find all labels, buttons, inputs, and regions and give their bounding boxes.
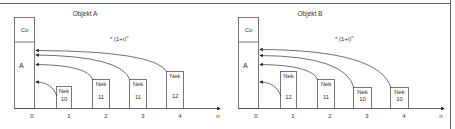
diagram-canvas: Objekt A * (1+i)n Co A 0 1 2 3 4 n Nek 1… (0, 0, 455, 129)
a-label: A (19, 62, 24, 69)
payment-value: 10 (359, 96, 366, 102)
co-label: Co (245, 27, 253, 33)
axis-end-label: n (439, 113, 442, 119)
payment-value: 10 (396, 96, 403, 102)
payment-label: Nek (283, 73, 295, 79)
payment-value: 11 (98, 94, 105, 100)
discount-arc-3 (36, 55, 130, 80)
discount-arc-3 (260, 56, 354, 89)
payment-label: Nek (321, 81, 333, 87)
a-label: A (243, 62, 248, 69)
discount-arc-2 (36, 65, 93, 81)
co-label: Co (21, 27, 29, 33)
payment-value: 11 (135, 94, 142, 100)
payment-value: 11 (323, 94, 330, 100)
panel-title: Objekt A (73, 10, 98, 18)
payment-label: Nek (133, 81, 145, 87)
payment-label: Nek (394, 89, 406, 95)
payment-label: Nek (357, 89, 369, 95)
payment-label: Nek (96, 81, 108, 87)
compound-formula: * (1+i)n (335, 34, 353, 42)
axis-tick-1: 1 (67, 113, 71, 119)
payment-label: Nek (59, 88, 71, 94)
axis-end-label: n (216, 113, 219, 119)
discount-arc-1 (36, 82, 57, 96)
payment-value: 12 (172, 93, 179, 99)
panel-title: Objekt B (298, 10, 323, 18)
axis-tick-0: 0 (30, 113, 34, 119)
axis-tick-3: 3 (365, 113, 369, 119)
compound-formula: * (1+i)n (110, 34, 128, 42)
axis-tick-2: 2 (104, 113, 108, 119)
axis-tick-1: 1 (291, 113, 295, 119)
axis-tick-3: 3 (141, 113, 145, 119)
panel-objekt-b: Objekt B * (1+i)n Co A 0 1 2 3 4 n Nek 1… (239, 10, 445, 119)
payment-label: Nek (170, 73, 182, 79)
axis-tick-4: 4 (178, 113, 182, 119)
axis-tick-0: 0 (254, 113, 258, 119)
axis-tick-4: 4 (402, 113, 406, 119)
axis-tick-2: 2 (328, 113, 332, 119)
payment-value: 10 (61, 96, 68, 102)
payment-value: 12 (285, 94, 292, 100)
panel-objekt-a: Objekt A * (1+i)n Co A 0 1 2 3 4 n Nek 1… (15, 10, 221, 119)
discount-arc-1 (260, 82, 281, 96)
